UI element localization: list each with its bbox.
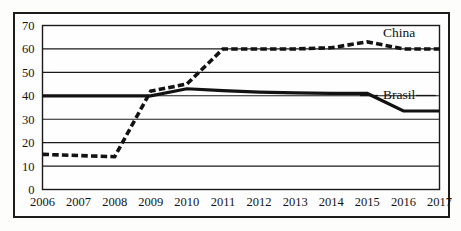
y-axis-tick-labels: 010203040506070 [22,19,35,197]
y-tick-label-30: 30 [22,113,35,127]
x-tick-label-2012: 2012 [247,195,272,209]
y-tick-label-60: 60 [22,42,35,56]
y-tick-label-20: 20 [22,136,35,150]
series-label-china: China [383,25,415,40]
x-tick-label-2014: 2014 [319,195,345,209]
line-chart: 010203040506070 200620072008200920102011… [0,0,461,231]
data-series-group [43,42,440,157]
x-axis-tick-labels: 2006200720082009201020112012201320142015… [30,195,452,209]
x-tick-label-2008: 2008 [102,195,127,209]
series-line-brasil [43,89,440,111]
x-tick-label-2006: 2006 [30,195,55,209]
x-tick-label-2015: 2015 [355,195,380,209]
y-tick-label-10: 10 [22,160,35,174]
x-tick-label-2016: 2016 [391,195,416,209]
x-tick-label-2010: 2010 [174,195,199,209]
series-label-brasil: Brasil [383,87,415,102]
x-tick-label-2007: 2007 [66,195,91,209]
y-tick-label-40: 40 [22,89,35,103]
y-tick-label-50: 50 [22,66,35,80]
x-tick-label-2011: 2011 [211,195,236,209]
x-tick-label-2013: 2013 [283,195,308,209]
x-tick-label-2017: 2017 [427,195,452,209]
x-tick-label-2009: 2009 [138,195,163,209]
chart-figure: 010203040506070 200620072008200920102011… [0,0,461,231]
series-annotations: ChinaBrasil [360,25,436,102]
y-tick-label-70: 70 [22,19,35,33]
